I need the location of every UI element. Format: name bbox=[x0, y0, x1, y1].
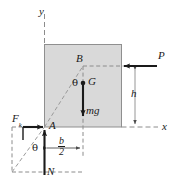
force-P-label: P bbox=[158, 50, 165, 61]
angle-theta-at-G-label: θ bbox=[72, 78, 78, 88]
dimension-b-over-2-label: b 2 bbox=[58, 136, 65, 157]
center-of-gravity-marker bbox=[81, 81, 86, 86]
physics-free-body-diagram: y x B G A P mg Fk N h b 2 θ θ bbox=[0, 0, 172, 191]
point-A-label: A bbox=[49, 120, 56, 131]
dimension-h-label: h bbox=[131, 88, 137, 99]
dimension-2-denominator: 2 bbox=[58, 147, 65, 157]
force-Fk-label: Fk bbox=[12, 113, 22, 127]
angle-theta-at-A-label: θ bbox=[32, 143, 38, 153]
dimension-b-numerator: b bbox=[58, 136, 65, 146]
force-N-label: N bbox=[47, 166, 54, 177]
force-Fk-label-main: F bbox=[12, 112, 19, 124]
force-Fk-label-subscript: k bbox=[19, 121, 22, 128]
point-G-label: G bbox=[88, 76, 96, 87]
diagram-canvas bbox=[0, 0, 172, 191]
x-axis-label: x bbox=[162, 121, 167, 132]
lower-left-diagonal-dashed bbox=[12, 127, 45, 172]
point-B-label: B bbox=[76, 53, 83, 64]
y-axis-label: y bbox=[39, 6, 44, 17]
force-mg-label: mg bbox=[86, 105, 99, 116]
